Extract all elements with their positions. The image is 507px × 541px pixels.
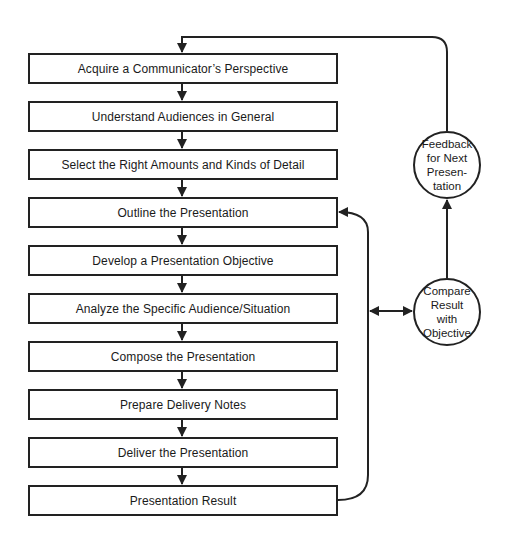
result-loop-arrow <box>338 212 368 500</box>
compare-line: Objective <box>423 326 471 340</box>
step-label: Understand Audiences in General <box>92 110 275 124</box>
step-analyze-audience: Analyze the Specific Audience/Situation <box>28 293 338 324</box>
presentation-process-flowchart: Acquire a Communicator’s Perspective Und… <box>0 0 507 541</box>
step-compose-presentation: Compose the Presentation <box>28 341 338 372</box>
step-acquire-perspective: Acquire a Communicator’s Perspective <box>28 53 338 84</box>
step-label: Presentation Result <box>130 494 237 508</box>
step-select-detail: Select the Right Amounts and Kinds of De… <box>28 149 338 180</box>
step-label: Deliver the Presentation <box>118 446 248 460</box>
compare-node: Compare Result with Objective <box>413 278 481 346</box>
step-prepare-notes: Prepare Delivery Notes <box>28 389 338 420</box>
step-label: Prepare Delivery Notes <box>120 398 246 412</box>
step-label: Compose the Presentation <box>111 350 255 364</box>
step-label: Select the Right Amounts and Kinds of De… <box>61 158 304 172</box>
step-outline-presentation: Outline the Presentation <box>28 197 338 228</box>
step-deliver-presentation: Deliver the Presentation <box>28 437 338 468</box>
step-label: Acquire a Communicator’s Perspective <box>78 62 289 76</box>
step-label: Analyze the Specific Audience/Situation <box>76 302 291 316</box>
compare-line: with <box>437 312 457 326</box>
feedback-line: Feedback <box>422 137 473 151</box>
feedback-line: tation <box>433 179 461 193</box>
compare-line: Result <box>431 298 464 312</box>
step-presentation-result: Presentation Result <box>28 485 338 516</box>
step-label: Develop a Presentation Objective <box>92 254 273 268</box>
step-label: Outline the Presentation <box>117 206 248 220</box>
step-develop-objective: Develop a Presentation Objective <box>28 245 338 276</box>
feedback-line: Presen- <box>427 165 467 179</box>
feedback-node: Feedback for Next Presen- tation <box>413 131 481 199</box>
step-understand-audiences: Understand Audiences in General <box>28 101 338 132</box>
compare-line: Compare <box>423 284 470 298</box>
feedback-line: for Next <box>427 151 467 165</box>
